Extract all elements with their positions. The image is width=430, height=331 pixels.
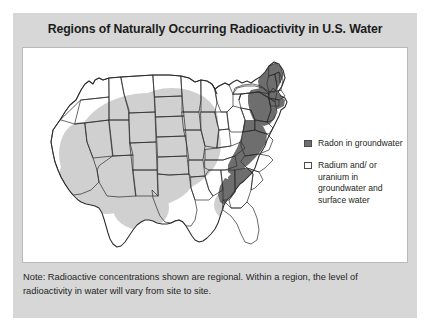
legend-item-radon: Radon in groundwater (304, 138, 408, 149)
legend-label-radon: Radon in groundwater (318, 138, 408, 149)
radium-swatch-icon (304, 162, 312, 170)
radon-swatch-icon (304, 140, 312, 148)
figure-container: Regions of Naturally Occurring Radioacti… (13, 13, 417, 318)
map-panel: Radon in groundwater Radium and/ or uran… (22, 47, 408, 263)
united-states-map (29, 50, 297, 262)
figure-note: Note: Radioactive concentrations shown a… (23, 271, 401, 298)
legend-label-radium: Radium and/ or uranium in groundwater an… (318, 160, 408, 206)
map-legend: Radon in groundwater Radium and/ or uran… (304, 138, 408, 206)
legend-item-radium: Radium and/ or uranium in groundwater an… (304, 160, 408, 206)
figure-title: Regions of Naturally Occurring Radioacti… (13, 22, 417, 36)
